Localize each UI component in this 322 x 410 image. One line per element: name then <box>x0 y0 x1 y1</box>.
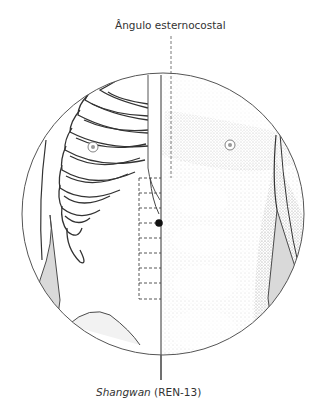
acupoint-code: (REN-13) <box>151 386 201 398</box>
label-acupoint: Shangwan (REN-13) <box>96 386 201 398</box>
acupoint-marker <box>155 219 163 227</box>
acupoint-name: Shangwan <box>96 386 151 398</box>
torso-view <box>35 60 321 380</box>
label-sternocostal-angle: Ângulo esternocostal <box>115 19 226 31</box>
rib-cage <box>59 75 148 263</box>
anatomy-illustration <box>0 0 322 410</box>
